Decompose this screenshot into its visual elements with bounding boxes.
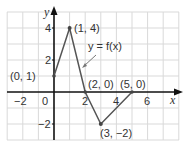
y-axis-label: y	[43, 5, 50, 19]
x-tick-label: −2	[14, 95, 27, 107]
y-tick-label: 4	[45, 22, 51, 34]
curve-label: y = f(x)	[88, 40, 122, 52]
y-tick-label: 2	[45, 54, 51, 66]
point-label: (1, 4)	[74, 22, 100, 34]
y-tick-label: −2	[38, 118, 51, 130]
point-label: (5, 0)	[120, 78, 146, 90]
x-tick-labels: −2 0 2 4 6	[14, 95, 150, 107]
x-axis-label: x	[169, 93, 176, 107]
point-label: (2, 0)	[88, 78, 114, 90]
y-axis-arrow-icon	[51, 6, 58, 15]
point-label: (0, 1)	[10, 70, 36, 82]
x-tick-label: 6	[144, 95, 150, 107]
function-graph: x y −2 0 2 4 6 4 2 −2 (0, 1) (1, 4) (2, …	[0, 0, 188, 148]
x-tick-label: 0	[42, 95, 48, 107]
point-label: (3, −2)	[100, 127, 132, 139]
